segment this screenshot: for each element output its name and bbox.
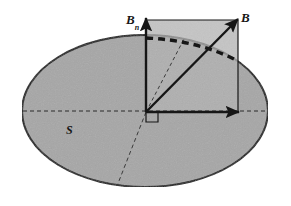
label-bn-base: B (126, 12, 135, 27)
label-normal-component: Bn (126, 13, 139, 30)
physics-figure: Bn B S (0, 0, 291, 206)
label-bn-subscript: n (135, 23, 139, 32)
label-surface: S (66, 124, 73, 136)
figure-canvas (0, 0, 291, 206)
label-field-vector: B (241, 11, 250, 24)
